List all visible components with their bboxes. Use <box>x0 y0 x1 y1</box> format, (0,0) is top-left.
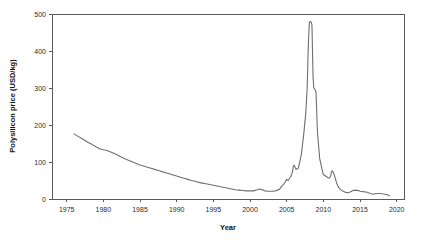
x-tick-label: 2015 <box>352 206 368 213</box>
x-tick-label: 2020 <box>389 206 405 213</box>
x-tick-label: 2010 <box>316 206 332 213</box>
polysilicon-price-line-chart: 0100200300400500 19751980198519901995200… <box>0 0 424 244</box>
x-tick-label: 1995 <box>206 206 222 213</box>
chart-figure: 0100200300400500 19751980198519901995200… <box>0 0 424 244</box>
y-tick-label: 300 <box>34 85 46 92</box>
x-tick-label: 1980 <box>96 206 112 213</box>
x-tick-label: 1975 <box>59 206 75 213</box>
x-axis-title: Year <box>220 223 236 232</box>
y-tick-label: 0 <box>42 196 46 203</box>
x-tick-label: 1985 <box>132 206 148 213</box>
y-tick-label: 400 <box>34 48 46 55</box>
series-line <box>74 21 389 195</box>
axis-frame <box>52 14 404 199</box>
x-tick-label: 2000 <box>242 206 258 213</box>
series-group <box>74 21 389 195</box>
x-tick-label: 1990 <box>169 206 185 213</box>
y-tick-label: 500 <box>34 11 46 18</box>
y-tick-label: 100 <box>34 159 46 166</box>
y-axis-ticks: 0100200300400500 <box>34 11 52 203</box>
plot-frame <box>52 14 404 199</box>
y-axis-title: Polysilicon price (USD/kg) <box>8 59 17 153</box>
y-tick-label: 200 <box>34 122 46 129</box>
x-axis-ticks: 1975198019851990199520002005201020152020 <box>59 199 405 213</box>
x-tick-label: 2005 <box>279 206 295 213</box>
